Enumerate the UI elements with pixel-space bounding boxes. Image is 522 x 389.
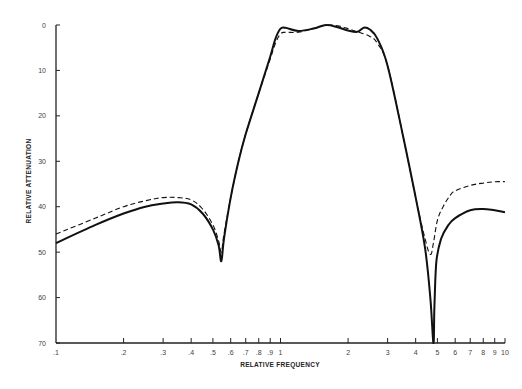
x-tick-label: 3 (386, 349, 390, 356)
x-tick-label: 4 (414, 349, 418, 356)
x-tick-label: 2 (346, 349, 350, 356)
x-tick-label: 8 (481, 349, 485, 356)
x-tick-label: .4 (188, 349, 194, 356)
x-axis-title: RELATIVE FREQUENCY (240, 361, 320, 369)
x-tick-label: .3 (160, 349, 166, 356)
x-tick-label: 10 (501, 349, 509, 356)
y-tick-label: 50 (38, 249, 46, 256)
x-tick-label: 7 (468, 349, 472, 356)
x-tick-label: .2 (121, 349, 127, 356)
x-tick-label: 1 (279, 349, 283, 356)
series-solid-line (56, 25, 505, 343)
attenuation-chart: 010203040506070 .1.2.3.4.5.6.7.8.9123456… (0, 0, 522, 389)
series-dashed-line (56, 25, 505, 255)
x-tick-label: .6 (228, 349, 234, 356)
x-tick-label: .8 (256, 349, 262, 356)
x-tick-label: 5 (435, 349, 439, 356)
y-tick-label: 20 (38, 112, 46, 119)
y-tick-label: 30 (38, 158, 46, 165)
y-axis-title: RELATIVE ATTENUATION (25, 139, 32, 224)
y-tick-label: 70 (38, 340, 46, 347)
y-tick-label: 40 (38, 203, 46, 210)
x-tick-label: .7 (243, 349, 249, 356)
x-ticks: .1.2.3.4.5.6.7.8.912345678910 (53, 338, 509, 356)
y-tick-label: 60 (38, 294, 46, 301)
x-tick-label: .1 (53, 349, 59, 356)
y-tick-label: 10 (38, 67, 46, 74)
x-tick-label: .9 (267, 349, 273, 356)
x-tick-label: .5 (210, 349, 216, 356)
x-tick-label: 9 (493, 349, 497, 356)
axes (56, 25, 505, 343)
x-tick-label: 6 (453, 349, 457, 356)
y-ticks: 010203040506070 (38, 22, 60, 347)
y-tick-label: 0 (42, 22, 46, 29)
series-group (56, 25, 505, 343)
